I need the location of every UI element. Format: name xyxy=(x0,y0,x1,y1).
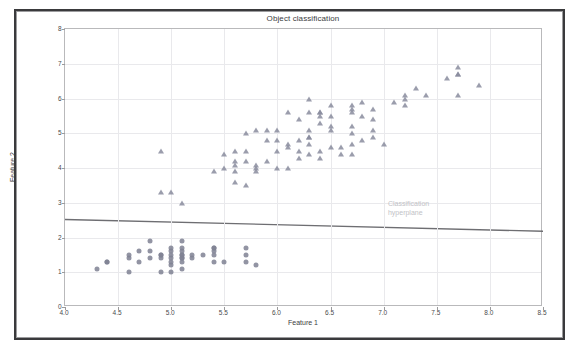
y-gridline xyxy=(65,168,541,169)
y-tick-label: 0 xyxy=(58,303,62,310)
x-tick-label: 8.0 xyxy=(484,309,493,316)
y-tick-label: 8 xyxy=(58,25,62,32)
x-gridline xyxy=(118,29,119,305)
y-gridline xyxy=(65,64,541,65)
x-tick-label: 5.0 xyxy=(166,309,175,316)
y-tick-label: 4 xyxy=(58,164,62,171)
y-axis-label: Feature 2 xyxy=(9,152,16,182)
x-gridline xyxy=(384,29,385,305)
y-tick-mark xyxy=(62,133,65,134)
x-gridline xyxy=(331,29,332,305)
x-gridline xyxy=(224,29,225,305)
x-tick-label: 5.5 xyxy=(219,309,228,316)
classification-hyperplane-label: Classification hyperplane xyxy=(388,199,429,217)
chart-title: Object classification xyxy=(64,14,542,23)
y-tick-label: 2 xyxy=(58,233,62,240)
y-tick-mark xyxy=(62,64,65,65)
y-tick-label: 1 xyxy=(58,268,62,275)
plot-area xyxy=(64,28,542,306)
y-tick-mark xyxy=(62,307,65,308)
x-tick-label: 4.5 xyxy=(113,309,122,316)
y-tick-mark xyxy=(62,272,65,273)
x-gridline xyxy=(490,29,491,305)
x-tick-label: 6.5 xyxy=(325,309,334,316)
y-gridline xyxy=(65,272,541,273)
x-tick-label: 4.0 xyxy=(59,309,68,316)
x-tick-label: 8.5 xyxy=(537,309,546,316)
y-gridline xyxy=(65,133,541,134)
y-tick-label: 5 xyxy=(58,129,62,136)
y-tick-label: 7 xyxy=(58,59,62,66)
x-tick-label: 7.0 xyxy=(378,309,387,316)
chart-figure: Object classification Feature 2 Feature … xyxy=(17,12,562,337)
y-tick-mark xyxy=(62,29,65,30)
classification-hyperplane xyxy=(65,219,543,231)
y-tick-mark xyxy=(62,238,65,239)
y-tick-label: 6 xyxy=(58,94,62,101)
y-gridline xyxy=(65,99,541,100)
y-gridline xyxy=(65,238,541,239)
y-tick-mark xyxy=(62,99,65,100)
x-axis-label: Feature 1 xyxy=(64,319,542,326)
y-tick-mark xyxy=(62,168,65,169)
screenshot-root: Object classification Feature 2 Feature … xyxy=(0,0,577,353)
y-tick-label: 3 xyxy=(58,198,62,205)
x-gridline xyxy=(277,29,278,305)
x-tick-label: 7.5 xyxy=(431,309,440,316)
y-tick-mark xyxy=(62,203,65,204)
x-gridline xyxy=(437,29,438,305)
y-gridline xyxy=(65,203,541,204)
x-tick-label: 6.0 xyxy=(272,309,281,316)
x-gridline xyxy=(171,29,172,305)
